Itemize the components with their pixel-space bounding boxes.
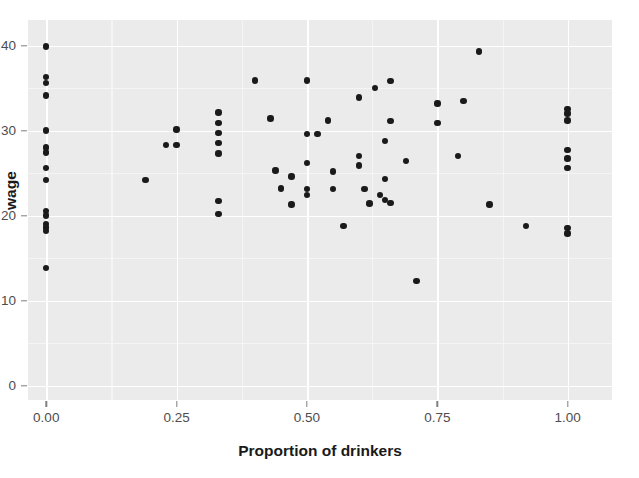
data-point xyxy=(252,77,258,83)
data-point xyxy=(215,130,221,136)
data-point xyxy=(173,142,179,148)
data-point xyxy=(278,185,284,191)
data-point xyxy=(215,109,221,115)
data-point xyxy=(267,115,273,121)
x-tick-label: 0.75 xyxy=(424,411,450,425)
gridline-major-horizontal xyxy=(28,301,612,303)
x-tick-mark xyxy=(437,401,438,407)
data-point xyxy=(460,98,466,104)
data-point xyxy=(325,117,331,123)
data-point xyxy=(43,127,49,133)
y-tick-mark xyxy=(21,130,27,131)
data-point xyxy=(476,48,482,54)
y-tick-mark xyxy=(21,385,27,386)
y-tick-mark xyxy=(21,215,27,216)
plot-panel xyxy=(28,20,612,400)
data-point xyxy=(340,223,346,229)
data-point xyxy=(356,162,362,168)
data-point xyxy=(215,140,221,146)
data-point xyxy=(288,173,294,179)
data-point xyxy=(288,201,294,207)
data-point xyxy=(372,85,378,91)
data-point xyxy=(43,149,49,155)
data-point xyxy=(486,201,492,207)
data-point xyxy=(43,212,49,218)
data-point xyxy=(564,117,570,123)
x-tick-mark xyxy=(46,401,47,407)
x-tick-label: 0.50 xyxy=(294,411,320,425)
data-point xyxy=(215,120,221,126)
data-point xyxy=(434,100,440,106)
gridline-minor-horizontal xyxy=(28,88,612,89)
x-axis-label: Proportion of drinkers xyxy=(28,442,612,460)
data-point xyxy=(330,168,336,174)
data-point xyxy=(455,153,461,159)
data-point xyxy=(356,94,362,100)
data-point xyxy=(43,177,49,183)
gridline-major-horizontal xyxy=(28,216,612,218)
data-point xyxy=(304,160,310,166)
data-point xyxy=(43,80,49,86)
x-tick-mark xyxy=(567,401,568,407)
gridline-major-vertical xyxy=(437,20,439,400)
x-tick-mark xyxy=(176,401,177,407)
gridline-minor-horizontal xyxy=(28,173,612,174)
data-point xyxy=(330,186,336,192)
data-point xyxy=(564,147,570,153)
y-tick-mark xyxy=(21,300,27,301)
y-axis-label: wage xyxy=(2,171,20,210)
data-point xyxy=(564,110,570,116)
y-tick-label: 10 xyxy=(1,294,16,308)
data-point xyxy=(314,131,320,137)
data-point xyxy=(564,155,570,161)
data-point xyxy=(434,120,440,126)
data-point xyxy=(361,186,367,192)
data-point xyxy=(173,126,179,132)
data-point xyxy=(43,92,49,98)
data-point xyxy=(163,142,169,148)
data-point xyxy=(142,177,148,183)
data-point xyxy=(523,223,529,229)
data-point xyxy=(382,176,388,182)
data-point xyxy=(387,200,393,206)
data-point xyxy=(43,228,49,234)
y-tick-label: 30 xyxy=(1,124,16,138)
x-tick-mark xyxy=(306,401,307,407)
gridline-major-vertical xyxy=(177,20,179,400)
data-point xyxy=(43,265,49,271)
data-point xyxy=(564,165,570,171)
gridline-major-horizontal xyxy=(28,386,612,388)
data-point xyxy=(43,43,49,49)
data-point xyxy=(304,192,310,198)
data-point xyxy=(387,118,393,124)
data-point xyxy=(382,138,388,144)
data-point xyxy=(215,198,221,204)
gridline-minor-horizontal xyxy=(28,343,612,344)
data-point xyxy=(215,150,221,156)
y-tick-label: 0 xyxy=(8,379,16,393)
data-point xyxy=(356,153,362,159)
x-tick-label: 0.00 xyxy=(33,411,59,425)
data-point xyxy=(403,158,409,164)
gridline-major-horizontal xyxy=(28,46,612,48)
data-point xyxy=(304,131,310,137)
y-tick-label: 40 xyxy=(1,39,16,53)
gridline-minor-horizontal xyxy=(28,258,612,259)
data-point xyxy=(413,278,419,284)
data-point xyxy=(366,200,372,206)
data-point xyxy=(215,211,221,217)
data-point xyxy=(564,230,570,236)
scatter-plot-figure: 010203040 0.000.250.500.751.00 Proportio… xyxy=(0,0,639,478)
data-point xyxy=(387,78,393,84)
x-tick-label: 1.00 xyxy=(555,411,581,425)
y-tick-mark xyxy=(21,45,27,46)
data-point xyxy=(304,77,310,83)
y-tick-label: 20 xyxy=(1,209,16,223)
x-tick-label: 0.25 xyxy=(163,411,189,425)
data-point xyxy=(272,167,278,173)
data-point xyxy=(43,165,49,171)
gridline-major-vertical xyxy=(568,20,570,400)
